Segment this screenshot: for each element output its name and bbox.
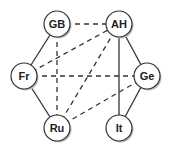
node-fr: Fr xyxy=(11,63,39,91)
node-ah: AH xyxy=(106,11,134,39)
alliance-graph-diagram: GBAHFrGeRuIt xyxy=(0,0,169,154)
node-label: Fr xyxy=(19,70,31,82)
edges-group xyxy=(24,24,147,128)
node-it: It xyxy=(106,115,134,143)
node-ru: Ru xyxy=(44,115,72,143)
node-label: Ru xyxy=(50,122,65,134)
edge-fr-ah xyxy=(24,24,119,76)
node-label: It xyxy=(116,122,123,134)
node-ge: Ge xyxy=(134,63,162,91)
graph-canvas: GBAHFrGeRuIt xyxy=(0,0,169,154)
node-label: Ge xyxy=(140,70,155,82)
node-label: AH xyxy=(111,18,127,30)
nodes-group: GBAHFrGeRuIt xyxy=(11,11,162,143)
node-gb: GB xyxy=(44,11,72,39)
node-label: GB xyxy=(49,18,66,30)
